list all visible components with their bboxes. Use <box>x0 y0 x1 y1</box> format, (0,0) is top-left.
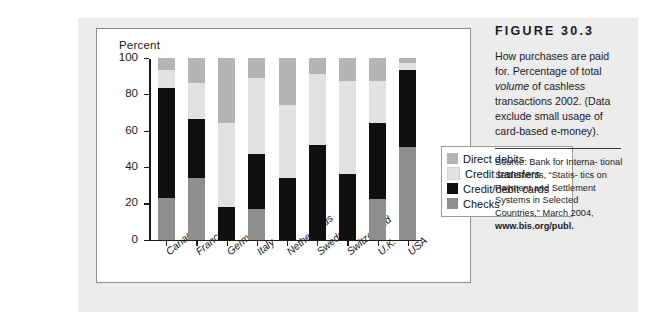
bar-segment-credit-transfers <box>218 123 235 207</box>
figure-caption-block: FIGURE 30.3 How purchases are paid for. … <box>495 24 625 232</box>
bar-segment-credit-debit-cards <box>369 123 386 199</box>
bar-netherlands <box>279 58 296 240</box>
bar-segment-credit-transfers <box>339 81 356 174</box>
bar-segment-checks <box>399 147 416 240</box>
bar-segment-credit-transfers <box>309 74 326 145</box>
bar-segment-credit-debit-cards <box>218 207 235 240</box>
caption-line-6: card-based e-money). <box>495 125 599 137</box>
bar-usa <box>399 58 416 240</box>
bar-segment-direct-debits <box>158 58 175 71</box>
figure-number: FIGURE 30.3 <box>495 24 625 38</box>
y-axis-tick: 20 <box>144 203 149 204</box>
bar-segment-checks <box>158 198 175 240</box>
caption-line-2: for. Percentage of total <box>495 65 602 77</box>
bar-segment-direct-debits <box>309 58 326 74</box>
source-line-1: Source: Bank for Interna- <box>495 157 598 167</box>
plot-area: 020406080100CanadaFranceGermanyItalyNeth… <box>149 59 421 241</box>
caption-line-3: of cashless <box>529 80 585 92</box>
bar-segment-credit-debit-cards <box>188 119 205 177</box>
y-axis-tick: 60 <box>144 131 149 132</box>
chart-frame: Percent 020406080100CanadaFranceGermanyI… <box>96 28 471 283</box>
legend-swatch <box>447 198 458 209</box>
figure-page: Percent 020406080100CanadaFranceGermanyI… <box>0 0 647 328</box>
y-axis-tick-label: 100 <box>119 51 138 63</box>
caption-line-5: exclude small usage of <box>495 110 603 122</box>
y-axis-title: Percent <box>119 39 160 51</box>
bar-switzerland <box>339 58 356 240</box>
y-axis-tick: 80 <box>144 94 149 95</box>
bar-segment-direct-debits <box>399 58 416 63</box>
legend-swatch <box>447 167 460 180</box>
bar-segment-direct-debits <box>369 58 386 82</box>
bar-segment-credit-transfers <box>248 78 265 154</box>
y-axis-tick-label: 20 <box>125 196 138 208</box>
legend-swatch <box>447 183 458 194</box>
bar-canada <box>158 58 175 240</box>
caption-emphasis: volume <box>495 80 529 92</box>
bar-segment-credit-debit-cards <box>158 88 175 197</box>
source-line-6: 2004, <box>571 208 594 218</box>
y-axis-tick: 100 <box>144 58 149 59</box>
bar-segment-credit-debit-cards <box>309 145 326 240</box>
y-axis-tick: 40 <box>144 167 149 168</box>
bar-segment-direct-debits <box>279 58 296 105</box>
bar-italy <box>248 58 265 240</box>
bar-segment-credit-transfers <box>188 83 205 119</box>
y-axis-tick-label: 0 <box>132 233 138 245</box>
y-axis-line <box>149 59 151 241</box>
bar-segment-direct-debits <box>188 58 205 83</box>
caption-divider <box>495 148 621 149</box>
bar-segment-credit-debit-cards <box>279 178 296 240</box>
legend-swatch <box>447 153 458 164</box>
bar-segment-credit-transfers <box>279 105 296 178</box>
source-url: www.bis.org/publ. <box>495 221 574 231</box>
bar-segment-credit-debit-cards <box>339 174 356 240</box>
bar-segment-direct-debits <box>218 58 235 124</box>
bar-segment-credit-transfers <box>369 81 386 123</box>
figure-source-text: Source: Bank for Interna- tional Settlem… <box>495 156 625 232</box>
figure-caption-text: How purchases are paid for. Percentage o… <box>495 49 625 139</box>
bar-germany <box>218 58 235 240</box>
bar-segment-credit-transfers <box>399 63 416 70</box>
caption-line-1: How purchases are paid <box>495 50 609 62</box>
bar-segment-direct-debits <box>339 58 356 82</box>
bar-segment-direct-debits <box>248 58 265 78</box>
y-axis-tick-label: 40 <box>125 160 138 172</box>
bar-france <box>188 58 205 240</box>
y-axis-tick-label: 80 <box>125 87 138 99</box>
bar-u-k <box>369 58 386 240</box>
y-axis-tick-label: 60 <box>125 124 138 136</box>
bar-segment-credit-transfers <box>158 70 175 88</box>
bar-segment-credit-debit-cards <box>248 154 265 209</box>
bar-segment-checks <box>248 209 265 240</box>
bar-segment-credit-debit-cards <box>399 70 416 146</box>
bar-segment-checks <box>188 178 205 240</box>
y-axis-tick: 0 <box>144 240 149 241</box>
caption-line-4: transactions 2002. (Data <box>495 95 610 107</box>
bar-segment-checks <box>369 199 386 239</box>
bar-sweden <box>309 58 326 240</box>
